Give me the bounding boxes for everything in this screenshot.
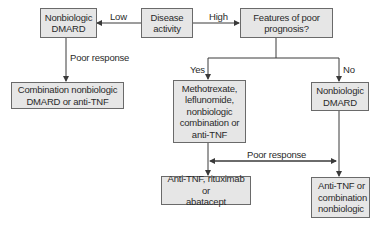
edge-label-poor-response-bottom: Poor response xyxy=(247,149,306,160)
node-antitnf-or-combination: Anti-TNF or combination nonbiologic xyxy=(311,177,370,218)
node-combination-or-antitnf: Combination nonbiologic DMARD or anti-TN… xyxy=(11,82,124,109)
node-label: Disease activity xyxy=(151,12,184,35)
edge-label-high: High xyxy=(209,11,228,22)
node-methotrexate-group: Methotrexate, leflunomide, nonbiologic c… xyxy=(173,80,246,143)
node-label: Nonbiologic DMARD xyxy=(316,85,363,108)
node-label: Features of poor prognosis? xyxy=(253,12,320,35)
node-antitnf-rituximab-abatacept: Anti-TNF, rituximab or abatacept xyxy=(161,176,251,205)
node-label: Methotrexate, leflunomide, nonbiologic c… xyxy=(180,83,240,141)
node-nonbiologic-dmard-low: Nonbiologic DMARD xyxy=(40,8,97,38)
edge-label-poor-response-left: Poor response xyxy=(70,52,129,63)
node-label: Combination nonbiologic DMARD or anti-TN… xyxy=(18,84,117,107)
edge-label-low: Low xyxy=(110,11,127,22)
edge-label-yes: Yes xyxy=(190,64,205,75)
node-label: Anti-TNF, rituximab or abatacept xyxy=(165,173,247,208)
node-label: Nonbiologic DMARD xyxy=(45,12,92,35)
node-nonbiologic-dmard-no: Nonbiologic DMARD xyxy=(311,82,369,111)
node-features-poor-prognosis: Features of poor prognosis? xyxy=(240,8,333,38)
edge-label-no: No xyxy=(343,64,355,75)
node-disease-activity: Disease activity xyxy=(141,8,193,38)
node-label: Anti-TNF or combination nonbiologic xyxy=(318,180,367,215)
